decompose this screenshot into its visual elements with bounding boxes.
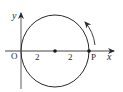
origin-label: O: [11, 51, 18, 61]
rotation-arrow-icon: [85, 22, 95, 45]
radius-label-right: 2: [68, 52, 73, 62]
x-axis-label: x: [106, 51, 112, 62]
y-axis-label: y: [11, 10, 17, 21]
radius-label-left: 2: [35, 52, 40, 62]
center-point: [53, 49, 57, 53]
diagram-canvas: y O 2 2 P x: [0, 0, 123, 92]
point-p-label: P: [91, 52, 96, 62]
